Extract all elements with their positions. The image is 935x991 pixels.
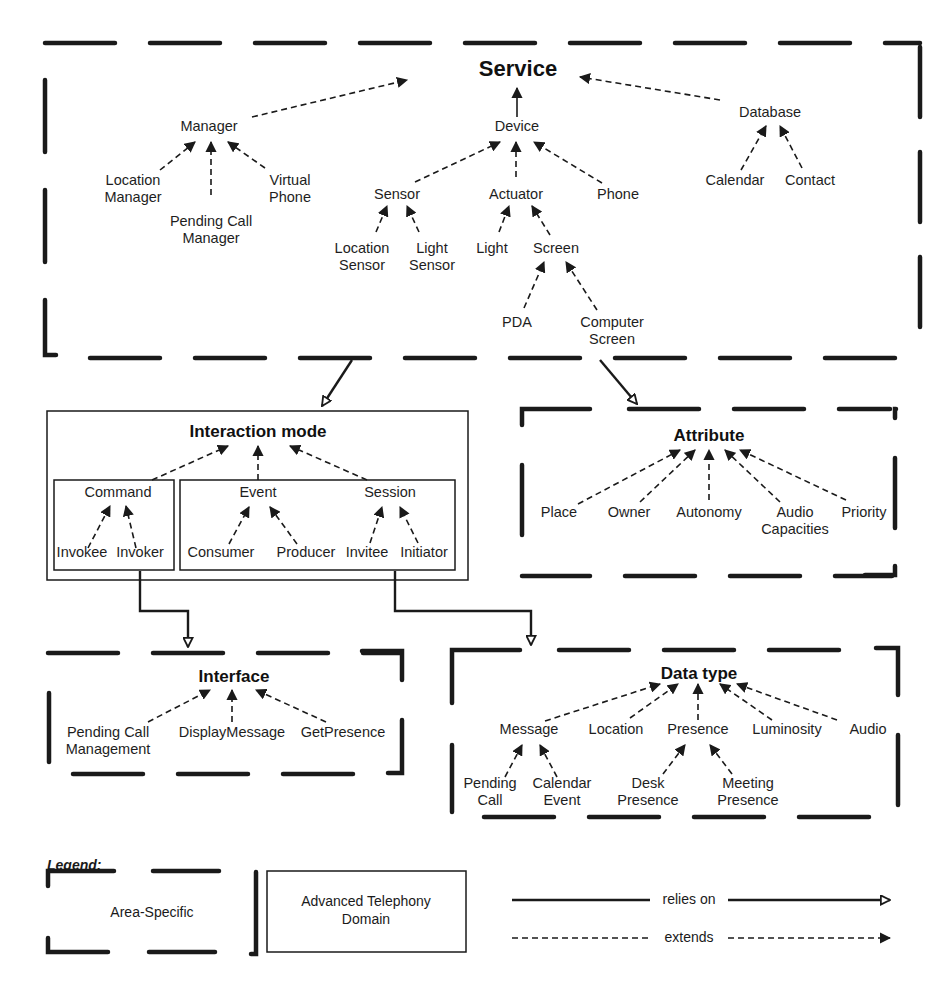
relies-on-arrow-command-to-interface [140, 571, 188, 647]
node-location-sensor: LocationSensor [335, 240, 390, 274]
node-location-manager: LocationManager [104, 172, 161, 206]
node-pda: PDA [502, 314, 532, 331]
node-place: Place [541, 504, 577, 521]
node-device: Device [495, 118, 539, 135]
node-meeting-presence: MeetingPresence [717, 775, 778, 809]
interaction-mode-title: Interaction mode [190, 422, 327, 442]
node-luminosity: Luminosity [752, 721, 821, 738]
node-location: Location [589, 721, 644, 738]
node-audio-capacities: AudioCapacities [761, 504, 829, 538]
node-pending-call-manager: Pending CallManager [170, 213, 252, 247]
node-session: Session [364, 484, 416, 501]
node-calendar: Calendar [706, 172, 765, 189]
legend-domain-label: Advanced TelephonyDomain [301, 892, 431, 928]
node-light-sensor: LightSensor [409, 240, 455, 274]
node-invokee: Invokee [57, 544, 108, 561]
relies-on-arrow-service-to-attribute [600, 360, 637, 404]
attribute-area-title: Attribute [674, 426, 745, 446]
node-display-message: DisplayMessage [179, 724, 285, 741]
node-consumer: Consumer [188, 544, 255, 561]
node-manager: Manager [180, 118, 237, 135]
node-sensor: Sensor [374, 186, 420, 203]
node-desk-presence: DeskPresence [617, 775, 678, 809]
legend-relies-on-label: relies on [659, 891, 720, 907]
node-calendar-event: CalendarEvent [533, 775, 592, 809]
service-area-border [45, 43, 920, 360]
legend-area-specific-label: Area-Specific [110, 904, 193, 920]
node-actuator: Actuator [489, 186, 543, 203]
node-producer: Producer [277, 544, 336, 561]
relies-on-arrow-session-to-datatype [395, 571, 531, 645]
relies-on-arrow-service-to-interaction [322, 360, 352, 406]
node-invitee: Invitee [346, 544, 389, 561]
node-presence: Presence [667, 721, 728, 738]
legend-extends-label: extends [660, 929, 717, 945]
node-pending-call: PendingCall [463, 775, 516, 809]
node-autonomy: Autonomy [676, 504, 741, 521]
node-owner: Owner [608, 504, 651, 521]
node-event: Event [239, 484, 276, 501]
data-type-area-title: Data type [661, 664, 738, 684]
node-audio: Audio [849, 721, 886, 738]
legend-title: Legend: [47, 857, 101, 873]
node-screen: Screen [533, 240, 579, 257]
node-priority: Priority [841, 504, 886, 521]
node-message: Message [500, 721, 559, 738]
node-pending-call-management: Pending CallManagement [66, 724, 151, 758]
node-invoker: Invoker [116, 544, 164, 561]
interface-area-title: Interface [199, 667, 270, 687]
node-light: Light [476, 240, 507, 257]
node-command: Command [85, 484, 152, 501]
node-initiator: Initiator [400, 544, 448, 561]
node-contact: Contact [785, 172, 835, 189]
node-database: Database [739, 104, 801, 121]
node-phone: Phone [597, 186, 639, 203]
node-virtual-phone: VirtualPhone [269, 172, 311, 206]
node-computer-screen: ComputerScreen [580, 314, 644, 348]
service-area-title: Service [479, 56, 557, 82]
node-get-presence: GetPresence [301, 724, 386, 741]
